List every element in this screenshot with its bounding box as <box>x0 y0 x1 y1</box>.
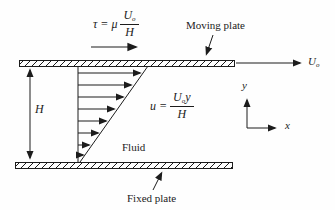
plate-velocity-label: Uo <box>308 55 319 70</box>
shear-formula-numerator: Uo <box>120 9 138 25</box>
y-axis-label: y <box>242 79 247 91</box>
moving-plate <box>20 61 235 67</box>
shear-formula-lhs: τ = μ <box>93 17 117 32</box>
moving-plate-pointer-arrow <box>207 35 214 54</box>
shear-stress-formula: τ = μ Uo H <box>93 9 139 40</box>
fixed-plate <box>16 163 233 169</box>
velocity-formula-fraction: Uoy H <box>170 91 194 122</box>
couette-flow-diagram: τ = μ Uo H Moving plate Uo H u = Uoy H F… <box>0 0 335 210</box>
fixed-plate-label: Fixed plate <box>127 192 176 204</box>
shear-formula-denominator: H <box>125 25 134 40</box>
x-axis-label: x <box>285 119 290 131</box>
fixed-plate-pointer-arrow <box>153 173 162 190</box>
velocity-formula-lhs: u = <box>150 99 167 114</box>
moving-plate-label: Moving plate <box>186 19 245 31</box>
velocity-formula-denominator: H <box>178 107 187 122</box>
velocity-formula: u = Uoy H <box>150 91 194 122</box>
fluid-label: Fluid <box>122 141 145 153</box>
velocity-formula-numerator: Uoy <box>170 91 194 107</box>
shear-formula-fraction: Uo H <box>120 9 138 40</box>
gap-height-label: H <box>35 103 44 116</box>
